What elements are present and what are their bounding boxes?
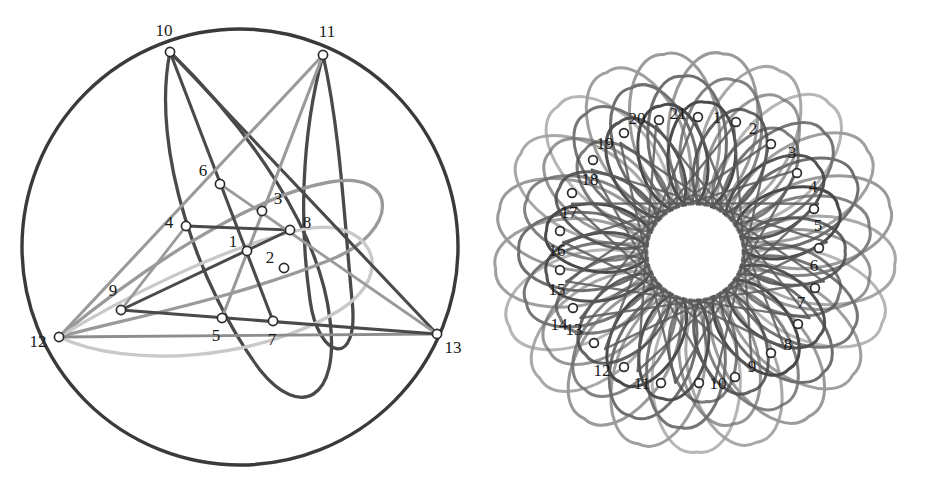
node-marker-15[interactable] bbox=[556, 266, 565, 275]
node-label-2: 2 bbox=[749, 119, 758, 138]
left-curve-group bbox=[59, 52, 437, 397]
node-label-11: 11 bbox=[319, 22, 335, 41]
node-label-13: 13 bbox=[445, 338, 462, 357]
node-label-17: 17 bbox=[561, 203, 579, 222]
node-marker-8[interactable] bbox=[767, 349, 776, 358]
node-marker-2[interactable] bbox=[279, 263, 288, 272]
node-marker-1[interactable] bbox=[732, 118, 741, 127]
right-diagram-svg: 123456789101112131415161718192021 bbox=[465, 0, 929, 494]
node-marker-2[interactable] bbox=[767, 140, 776, 149]
node-label-9: 9 bbox=[748, 357, 757, 376]
node-label-3: 3 bbox=[274, 189, 283, 208]
node-label-12: 12 bbox=[594, 361, 611, 380]
node-marker-9[interactable] bbox=[731, 373, 740, 382]
node-marker-18[interactable] bbox=[589, 156, 598, 165]
node-marker-7[interactable] bbox=[268, 316, 277, 325]
node-marker-7[interactable] bbox=[794, 320, 803, 329]
node-marker-10[interactable] bbox=[165, 47, 174, 56]
node-marker-12[interactable] bbox=[620, 363, 629, 372]
node-marker-21[interactable] bbox=[694, 113, 703, 122]
node-label-18: 18 bbox=[582, 170, 599, 189]
node-marker-6[interactable] bbox=[215, 179, 224, 188]
curve-chord-9-13 bbox=[121, 310, 437, 334]
node-marker-5[interactable] bbox=[217, 313, 226, 322]
node-marker-3[interactable] bbox=[793, 169, 802, 178]
node-label-14: 14 bbox=[551, 315, 569, 334]
node-label-3: 3 bbox=[788, 143, 797, 162]
node-label-8: 8 bbox=[303, 213, 312, 232]
node-label-10: 10 bbox=[156, 21, 173, 40]
node-label-7: 7 bbox=[797, 293, 806, 312]
node-label-7: 7 bbox=[268, 330, 277, 349]
node-marker-16[interactable] bbox=[556, 227, 565, 236]
node-marker-11[interactable] bbox=[318, 50, 327, 59]
node-label-4: 4 bbox=[165, 213, 174, 232]
node-marker-4[interactable] bbox=[810, 205, 819, 214]
node-label-8: 8 bbox=[784, 335, 793, 354]
figure-root: 12345678910111213 1234567891011121314151… bbox=[0, 0, 929, 494]
curve-chord-9-4 bbox=[121, 226, 186, 310]
node-marker-6[interactable] bbox=[811, 284, 820, 293]
node-label-20: 20 bbox=[629, 109, 646, 128]
node-label-21: 21 bbox=[670, 104, 687, 123]
node-label-19: 19 bbox=[597, 134, 614, 153]
node-marker-8[interactable] bbox=[285, 225, 294, 234]
node-label-10: 10 bbox=[710, 374, 727, 393]
panel-left-thirteen-point: 12345678910111213 bbox=[0, 0, 465, 494]
node-marker-13[interactable] bbox=[432, 329, 441, 338]
node-label-5: 5 bbox=[212, 326, 221, 345]
node-marker-11[interactable] bbox=[657, 379, 666, 388]
node-marker-20[interactable] bbox=[655, 116, 664, 125]
node-label-5: 5 bbox=[814, 216, 823, 235]
node-label-4: 4 bbox=[809, 177, 818, 196]
node-marker-5[interactable] bbox=[815, 244, 824, 253]
node-marker-3[interactable] bbox=[257, 206, 266, 215]
node-marker-13[interactable] bbox=[590, 339, 599, 348]
node-marker-1[interactable] bbox=[242, 246, 251, 255]
node-label-6: 6 bbox=[199, 161, 208, 180]
node-label-2: 2 bbox=[266, 248, 275, 267]
node-marker-14[interactable] bbox=[569, 304, 578, 313]
node-label-9: 9 bbox=[109, 281, 118, 300]
node-label-1: 1 bbox=[713, 108, 722, 127]
left-diagram-svg: 12345678910111213 bbox=[0, 0, 465, 494]
node-label-6: 6 bbox=[810, 256, 819, 275]
node-marker-19[interactable] bbox=[620, 129, 629, 138]
panel-right-twentyone-point: 123456789101112131415161718192021 bbox=[465, 0, 929, 494]
node-marker-10[interactable] bbox=[695, 379, 704, 388]
curve-chord-4-8 bbox=[186, 226, 290, 230]
node-label-13: 13 bbox=[566, 320, 583, 339]
node-label-1: 1 bbox=[229, 232, 238, 251]
node-label-16: 16 bbox=[549, 241, 566, 260]
node-label-11: 11 bbox=[634, 374, 650, 393]
curve-chord-12-13 bbox=[59, 334, 437, 337]
node-label-12: 12 bbox=[30, 332, 47, 351]
node-marker-12[interactable] bbox=[54, 332, 63, 341]
node-label-15: 15 bbox=[549, 280, 566, 299]
center-hole bbox=[650, 207, 740, 297]
node-marker-4[interactable] bbox=[181, 221, 190, 230]
node-marker-17[interactable] bbox=[568, 189, 577, 198]
node-marker-9[interactable] bbox=[116, 305, 125, 314]
